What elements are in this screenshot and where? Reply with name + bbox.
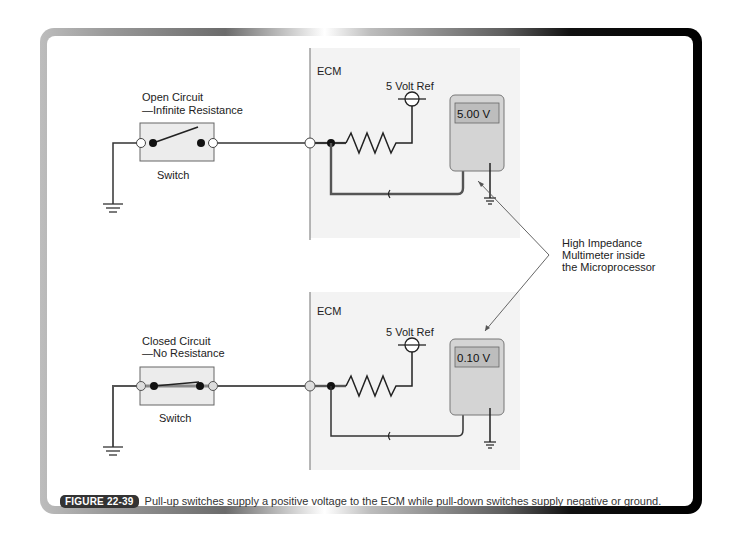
figure-caption: FIGURE 22-39 Pull-up switches supply a p… — [60, 493, 661, 509]
top-state-label-2: —Infinite Resistance — [142, 104, 243, 116]
bottom-switch-label: Switch — [159, 412, 191, 424]
terminal-icon — [209, 139, 218, 148]
top-meter-reading: 5.00 V — [457, 108, 491, 120]
ecm-terminal-icon — [305, 138, 315, 148]
caption-text: Pull-up switches supply a positive volta… — [145, 495, 662, 507]
callout-line-3: the Microprocessor — [562, 261, 656, 273]
bottom-ecm-label: ECM — [317, 305, 341, 317]
contact-icon — [149, 139, 157, 147]
figure-badge: FIGURE 22-39 — [60, 495, 139, 508]
bottom-ref-label: 5 Volt Ref — [386, 326, 435, 338]
bottom-state-label-2: —No Resistance — [142, 347, 225, 359]
terminal-icon — [137, 382, 146, 391]
top-ecm-label: ECM — [317, 65, 341, 77]
circuit-diagram: Open Circuit —Infinite Resistance Switch… — [0, 0, 741, 553]
top-switch-label: Switch — [157, 169, 189, 181]
top-state-label-1: Open Circuit — [142, 91, 203, 103]
contact-icon — [197, 139, 205, 147]
callout-line-2: Multimeter inside — [562, 249, 645, 261]
top-ref-label: 5 Volt Ref — [386, 80, 435, 92]
bottom-meter-reading: 0.10 V — [457, 352, 491, 364]
callout-line-1: High Impedance — [562, 237, 642, 249]
contact-icon — [196, 382, 204, 390]
ground-icon — [103, 204, 123, 212]
bottom-state-label-1: Closed Circuit — [142, 335, 210, 347]
terminal-icon — [137, 139, 146, 148]
ecm-terminal-icon — [305, 381, 315, 391]
terminal-icon — [209, 382, 218, 391]
ground-icon — [103, 447, 123, 455]
contact-icon — [150, 382, 158, 390]
